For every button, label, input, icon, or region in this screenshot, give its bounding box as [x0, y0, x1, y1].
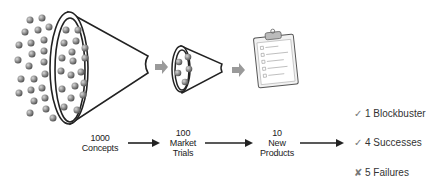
flow-arrows: [128, 139, 344, 147]
stage-market-trials: 100 Market Trials: [164, 128, 202, 158]
outcome-label: 5 Failures: [365, 167, 409, 178]
outcome-blockbuster: ✓1 Blockbuster: [354, 108, 426, 120]
clipboard-checklist-icon: [253, 27, 299, 88]
product-funnel-diagram: 1000 Concepts 100 Market Trials 10 New P…: [0, 0, 437, 190]
check-icon: ✓: [354, 108, 362, 119]
check-icon: ✓: [354, 137, 362, 148]
process-arrow-icon: [232, 63, 245, 77]
stage-name-2: Products: [256, 148, 298, 158]
stage-count: 10: [256, 128, 298, 138]
stage-concepts: 1000 Concepts: [78, 133, 122, 153]
outcome-label: 4 Successes: [365, 137, 422, 148]
outcome-failures: ✘5 Failures: [354, 167, 409, 179]
outcome-label: 1 Blockbuster: [365, 108, 426, 119]
stage-name: New: [256, 138, 298, 148]
cross-icon: ✘: [354, 167, 362, 178]
small-funnel-icon: [172, 46, 222, 93]
stage-count: 1000: [78, 133, 122, 143]
stage-count: 100: [164, 128, 202, 138]
process-arrow-icon: [155, 60, 168, 74]
stage-name-2: Trials: [164, 148, 202, 158]
outcome-successes: ✓4 Successes: [354, 137, 422, 149]
stage-new-products: 10 New Products: [256, 128, 298, 158]
stage-name: Concepts: [78, 143, 122, 153]
stage-name: Market: [164, 138, 202, 148]
